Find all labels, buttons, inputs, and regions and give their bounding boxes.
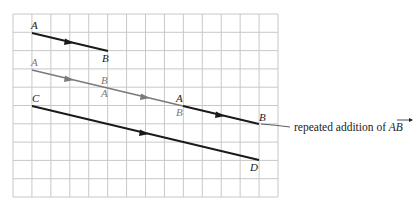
grid	[13, 14, 278, 197]
label-b3: B	[259, 111, 266, 123]
label-b1: B	[101, 74, 108, 86]
vector-name: AB	[388, 121, 403, 133]
arrowhead-icon	[64, 76, 74, 83]
label-a1: A	[30, 56, 38, 68]
label-a2: A	[100, 87, 108, 99]
label-c: C	[32, 92, 40, 104]
leader-line	[261, 124, 290, 127]
label-b2: B	[176, 106, 183, 118]
label-b: B	[102, 52, 109, 64]
label-a3: A	[175, 92, 183, 104]
vector-diagram: A B A B A A B B C D repeated addition of…	[0, 0, 415, 209]
label-a: A	[30, 19, 38, 31]
annotation-text: repeated addition of AB	[294, 121, 403, 134]
label-d: D	[249, 161, 258, 173]
